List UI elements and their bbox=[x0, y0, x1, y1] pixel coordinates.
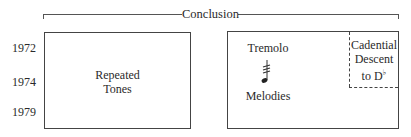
bracket-tick-right bbox=[398, 14, 399, 19]
label-text: to D bbox=[362, 69, 383, 83]
label-line: Repeated bbox=[45, 68, 190, 82]
tremolo-note-icon bbox=[259, 59, 273, 85]
bracket-tick-left bbox=[43, 14, 44, 19]
year-label: 1972 bbox=[12, 41, 36, 55]
cadential-descent-label: Cadential Descent to D♭ bbox=[350, 38, 398, 83]
label-line: Cadential bbox=[350, 38, 398, 52]
label-line: Tones bbox=[45, 82, 190, 96]
repeated-tones-label: Repeated Tones bbox=[45, 68, 190, 96]
flat-icon: ♭ bbox=[383, 68, 387, 77]
bracket-label: Conclusion bbox=[182, 7, 238, 21]
melodies-label: Melodies bbox=[236, 89, 300, 103]
label-line: Descent bbox=[350, 52, 398, 66]
year-label: 1974 bbox=[12, 75, 36, 89]
tremolo-label: Tremolo bbox=[238, 41, 298, 55]
inset-divider-horizontal bbox=[349, 87, 398, 88]
label-line: to D♭ bbox=[350, 66, 398, 83]
year-label: 1979 bbox=[12, 105, 36, 119]
bracket-line-right bbox=[237, 14, 398, 15]
repeated-tones-box: Repeated Tones bbox=[44, 32, 191, 129]
bracket-line-left bbox=[43, 14, 183, 15]
tremolo-melodies-box: Tremolo Melodies Cadential Descent to D♭ bbox=[227, 31, 399, 129]
